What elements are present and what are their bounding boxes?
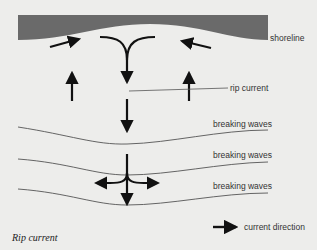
arrow-right-inward bbox=[182, 41, 211, 48]
label-breaking-waves-1: breaking waves bbox=[213, 120, 272, 129]
figure-caption: Rip current bbox=[12, 232, 57, 243]
shoreline-band bbox=[18, 15, 268, 40]
label-breaking-waves-3: breaking waves bbox=[213, 182, 272, 191]
label-rip-current: rip current bbox=[230, 84, 268, 93]
label-shoreline: shoreline bbox=[270, 34, 305, 43]
converging-curve bbox=[100, 37, 127, 82]
label-breaking-waves-2: breaking waves bbox=[213, 151, 272, 160]
arrow-left-inward bbox=[50, 39, 79, 47]
wave-line-3 bbox=[18, 189, 268, 205]
wave-line-2 bbox=[18, 159, 268, 175]
wave-line-1 bbox=[18, 127, 268, 144]
legend-current-direction: current direction bbox=[244, 223, 305, 232]
rip-current-leader bbox=[129, 88, 228, 91]
